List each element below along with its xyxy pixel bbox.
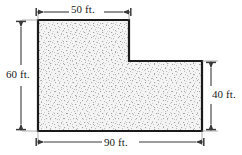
dimension-label-right: 40 ft. <box>212 89 236 100</box>
geometry-figure: 50 ft. 60 ft. 40 ft. 90 ft. <box>0 0 242 155</box>
lot-polygon <box>38 20 202 131</box>
dimension-label-left: 60 ft. <box>6 69 30 80</box>
figure-canvas <box>0 0 242 155</box>
dimension-label-top: 50 ft. <box>71 4 95 15</box>
dimension-label-bottom: 90 ft. <box>104 137 128 148</box>
